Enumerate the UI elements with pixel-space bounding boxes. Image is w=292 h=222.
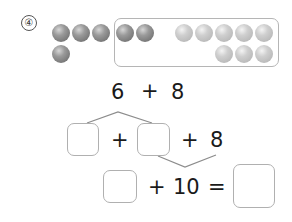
answer-box-split-left[interactable] bbox=[67, 123, 99, 156]
plus-sign: + bbox=[111, 129, 129, 151]
addend-eight: 8 bbox=[210, 129, 223, 151]
plus-sign: + bbox=[181, 129, 199, 151]
equals-sign: = bbox=[208, 176, 226, 198]
answer-box-split-right[interactable] bbox=[137, 123, 170, 156]
answer-box-sum[interactable] bbox=[233, 164, 275, 208]
answer-box-remainder[interactable] bbox=[103, 170, 137, 203]
plus-sign: + bbox=[148, 176, 166, 198]
ten-value: 10 bbox=[173, 176, 200, 198]
